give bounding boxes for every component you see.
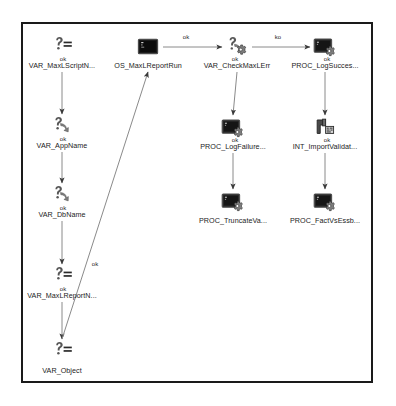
node-label: PROC_FactVsEssb... — [277, 216, 373, 225]
console-icon — [135, 36, 161, 60]
edge-e8 — [233, 72, 237, 115]
edge-label-e6: ok — [183, 34, 189, 41]
edge-label-e9: ok — [232, 137, 238, 144]
console-gear-icon — [220, 191, 246, 215]
node-int_import_validat[interactable]: INT_ImportValidat... — [277, 117, 373, 151]
edge-label-e1: ok — [60, 56, 66, 63]
node-var_maxl_script[interactable]: VAR_MaxLScriptN... — [14, 36, 110, 70]
diagram-canvas: VAR_MaxLScriptN...VAR_AppNameVAR_DbNameV… — [0, 0, 396, 406]
node-label: PROC_TruncateVa... — [185, 216, 281, 225]
edge-label-e8: ok — [232, 56, 238, 63]
edge-label-e10: ok — [324, 56, 330, 63]
node-var_check_maxl_err[interactable]: VAR_CheckMaxLErr — [189, 36, 285, 70]
node-var_db_name[interactable]: VAR_DbName — [14, 185, 110, 219]
edge-label-e2: ok — [60, 136, 66, 143]
edge-label-e11: ok — [324, 137, 330, 144]
edge-label-e5: ok — [92, 261, 98, 268]
node-var_object[interactable]: VAR_Object — [14, 341, 110, 375]
node-label: OS_MaxLReportRun — [100, 61, 196, 70]
console-gear-icon — [312, 191, 338, 215]
node-proc_fact_vs_essb[interactable]: PROC_FactVsEssb... — [277, 191, 373, 225]
edge-label-e3: ok — [60, 205, 66, 212]
edge-label-e4: ok — [60, 286, 66, 293]
edge-label-e7: ko — [275, 34, 281, 41]
node-proc_log_success[interactable]: PROC_LogSucces... — [277, 36, 373, 70]
node-proc_log_failure[interactable]: PROC_LogFailure... — [185, 117, 281, 151]
node-var_maxl_report[interactable]: VAR_MaxLReportN... — [14, 266, 110, 300]
node-os_maxl_report_run[interactable]: OS_MaxLReportRun — [100, 36, 196, 70]
node-proc_truncate_va[interactable]: PROC_TruncateVa... — [185, 191, 281, 225]
node-label: VAR_Object — [14, 366, 110, 375]
node-var_app_name[interactable]: VAR_AppName — [14, 116, 110, 150]
question-equals-icon — [49, 341, 75, 365]
